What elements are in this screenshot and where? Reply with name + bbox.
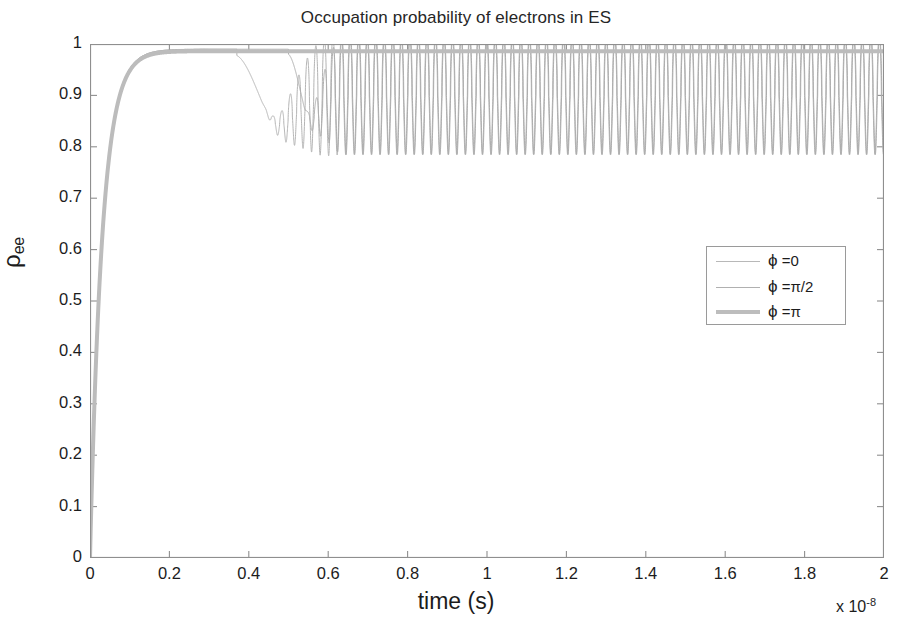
x-tick-label: 0.2 xyxy=(139,564,199,583)
x-tick-label: 1.8 xyxy=(775,564,835,583)
x-tick-label: 0.4 xyxy=(219,564,279,583)
legend-line-swatch xyxy=(716,261,760,262)
legend-item-label: ϕ =π/2 xyxy=(768,277,813,297)
legend-item-phi-0[interactable]: ϕ =0 xyxy=(707,248,847,274)
x-tick-label: 1.6 xyxy=(695,564,755,583)
x-tick-label: 1.2 xyxy=(536,564,596,583)
legend-item-label: ϕ =π xyxy=(768,302,801,322)
legend-item-label: ϕ =0 xyxy=(768,251,799,271)
x-tick-label: 0.6 xyxy=(298,564,358,583)
figure-canvas: Occupation probability of electrons in E… xyxy=(0,0,912,635)
legend-line-swatch xyxy=(716,287,760,288)
legend-item-phi-pi[interactable]: ϕ =π xyxy=(707,299,847,325)
x-tick-label: 0.8 xyxy=(378,564,438,583)
legend[interactable]: ϕ =0 ϕ =π/2 ϕ =π xyxy=(706,246,846,325)
x-tick-label: 2 xyxy=(854,564,912,583)
legend-line-swatch xyxy=(716,310,760,314)
x-tick-label: 1.4 xyxy=(616,564,676,583)
x-tick-label: 0 xyxy=(60,564,120,583)
legend-item-phi-pi-2[interactable]: ϕ =π/2 xyxy=(707,274,847,300)
x-tick-label: 1 xyxy=(457,564,517,583)
